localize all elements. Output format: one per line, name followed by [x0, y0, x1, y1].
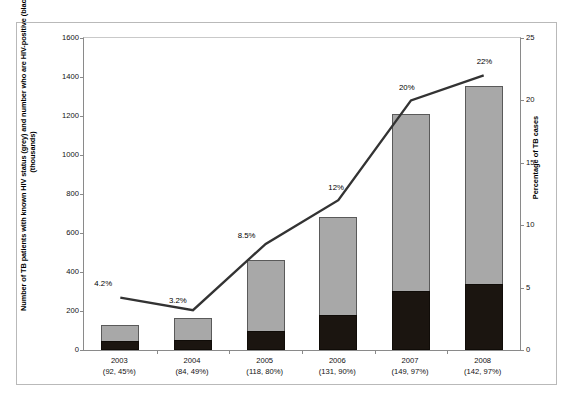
data-label-2006: 12% — [328, 183, 344, 192]
x-tickmark-5 — [447, 350, 448, 354]
y-tick-right-0: 0 — [526, 345, 530, 354]
data-label-2008: 22% — [477, 57, 493, 66]
y-tickmark-right-5 — [520, 288, 524, 289]
y-tickmark-right-15 — [520, 163, 524, 164]
x-label-detail-2008: (142, 97%) — [440, 366, 526, 377]
y-tick-left-400: 400 — [66, 267, 79, 276]
y-tickmark-right-25 — [520, 38, 524, 39]
chart-figure: Number of TB patients with known HIV sta… — [16, 22, 557, 385]
data-label-2003: 4.2% — [94, 279, 112, 288]
y-tick-right-15: 15 — [526, 158, 534, 167]
y-tick-left-600: 600 — [66, 228, 79, 237]
x-label-2008: 2008(142, 97%) — [440, 355, 526, 377]
y-tick-left-1400: 1400 — [62, 72, 79, 81]
y-tick-right-20: 20 — [526, 95, 534, 104]
y-tick-left-1200: 1200 — [62, 111, 79, 120]
y-tick-left-200: 200 — [66, 306, 79, 315]
y-tick-right-5: 5 — [526, 283, 530, 292]
y-tickmark-left-0 — [80, 350, 84, 351]
y-tick-right-10: 10 — [526, 220, 534, 229]
data-label-2005: 8.5% — [238, 231, 256, 240]
x-tickmark-3 — [302, 350, 303, 354]
x-tickmark-1 — [157, 350, 158, 354]
y-tick-right-25: 25 — [526, 33, 534, 42]
y-tickmark-right-0 — [520, 350, 524, 351]
y-tickmark-right-20 — [520, 100, 524, 101]
data-label-2004: 3.2% — [169, 296, 187, 305]
y-tick-left-1600: 1600 — [62, 33, 79, 42]
line-series — [84, 38, 520, 350]
y-tickmark-right-10 — [520, 225, 524, 226]
y-tick-left-0: 0 — [75, 345, 79, 354]
x-tickmark-2 — [229, 350, 230, 354]
y-tick-left-800: 800 — [66, 189, 79, 198]
y-tick-left-1000: 1000 — [62, 150, 79, 159]
x-tickmark-4 — [375, 350, 376, 354]
y-axis-left-title: Number of TB patients with known HIV sta… — [19, 0, 37, 315]
x-label-year-2008: 2008 — [440, 355, 526, 366]
plot-area: 02004006008001000120014001600 0510152025… — [83, 37, 521, 351]
data-label-2007: 20% — [399, 83, 415, 92]
